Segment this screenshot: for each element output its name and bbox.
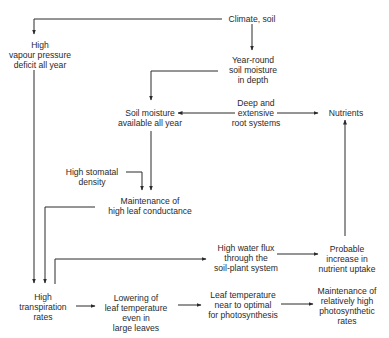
node-nutrients: Nutrients [318, 108, 374, 118]
node-water-flux: High water flux through the soil-plant s… [206, 243, 286, 273]
node-year-round-soil-moisture: Year-round soil moisture in depth [218, 55, 288, 85]
flow-diagram: Climate, soil High vapour pressure defic… [0, 0, 389, 338]
node-photosynthetic-rates: Maintenance of relatively high photosynt… [312, 286, 382, 326]
edge-transpiration-to-waterflux [55, 259, 206, 284]
edge-stomatal-to-conductance [126, 172, 142, 190]
edge-conductance-to-transpiration [45, 207, 95, 283]
node-root-systems: Deep and extensive root systems [228, 98, 284, 128]
node-stomatal-density: High stomatal density [60, 167, 124, 187]
node-nutrient-uptake: Probable increase in nutrient uptake [316, 244, 378, 274]
node-soil-moisture-available: Soil moisture available all year [110, 108, 190, 128]
node-leaf-conductance: Maintenance of high leaf conductance [96, 196, 204, 216]
edge-climate-to-vapour [34, 19, 222, 34]
node-vapour-pressure-deficit: High vapour pressure deficit all year [0, 40, 80, 70]
edge-yearround-to-soilmoisture [151, 71, 218, 100]
node-leaf-temperature-optimal: Leaf temperature near to optimal for pho… [204, 290, 282, 320]
node-climate-soil: Climate, soil [222, 14, 282, 24]
node-transpiration-rates: High transpiration rates [12, 292, 74, 322]
node-lowering-leaf-temperature: Lowering of leaf temperature even in lar… [96, 293, 176, 333]
